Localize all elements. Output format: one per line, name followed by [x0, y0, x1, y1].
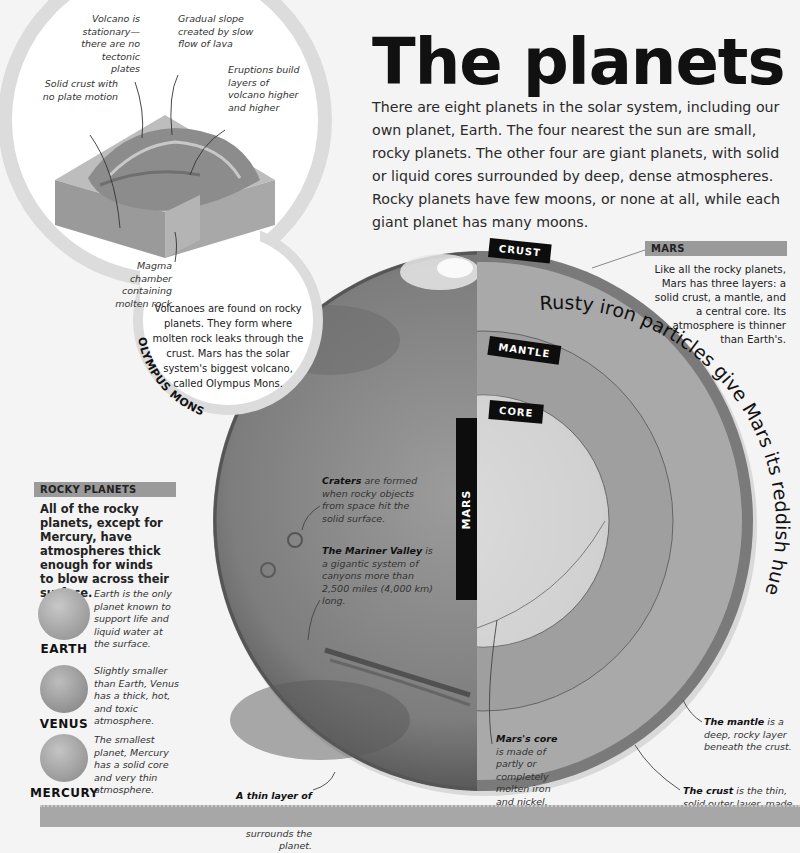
earth-icon — [38, 588, 90, 640]
label-solid-crust: Solid crust with no plate motion — [40, 78, 118, 103]
volcano-caption: Volcanoes are found on rocky planets. Th… — [148, 301, 308, 391]
annotation-mantle: The mantle is a deep, rocky layer beneat… — [704, 716, 796, 754]
mars-box-text: Like all the rocky planets, Mars has thr… — [648, 262, 786, 346]
label-eruptions: Eruptions build layers of volcano higher… — [228, 64, 308, 114]
label-gradual-slope: Gradual slope created by slow flow of la… — [178, 13, 258, 51]
annotation-core: Mars's core is made of partly or complet… — [496, 733, 566, 808]
mars-vertical-label: MARS — [460, 489, 473, 529]
rocky-planets-header: ROCKY PLANETS — [34, 482, 176, 497]
rocky-planets-intro: All of the rocky planets, except for Mer… — [40, 502, 170, 600]
label-stationary: Volcano is stationary—there are no tecto… — [72, 13, 140, 76]
mars-vertical-bar: MARS — [456, 418, 477, 600]
annotation-mariner-valley: The Mariner Valley is a gigantic system … — [322, 545, 437, 608]
annotation-craters: Craters are formed when rocky objects fr… — [322, 475, 422, 525]
mars-box-header: MARS — [645, 241, 787, 256]
bottom-decorative-band — [40, 805, 800, 827]
venus-icon — [40, 665, 88, 713]
mercury-icon — [40, 734, 88, 782]
